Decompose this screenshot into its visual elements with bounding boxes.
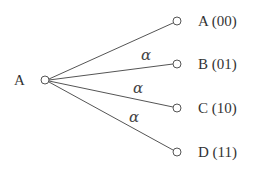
edge-a-d11 (49, 82, 173, 150)
edge-label-c10: α (133, 79, 143, 97)
tree-diagram: A A (00) B (01) C (10) D (11) α α α (0, 0, 254, 173)
leaf-node-b01 (173, 60, 181, 68)
root-node (41, 76, 49, 84)
root-label: A (14, 72, 25, 88)
leaf-label-c10: C (10) (198, 100, 237, 117)
edge-a-c10 (49, 81, 173, 107)
edge-label-b01: α (141, 46, 151, 64)
diagram-svg: A A (00) B (01) C (10) D (11) α α α (0, 0, 254, 173)
edge-a-a00 (49, 23, 173, 79)
edge-a-b01 (49, 64, 173, 80)
leaf-node-d11 (173, 148, 181, 156)
leaf-node-c10 (173, 104, 181, 112)
leaf-label-d11: D (11) (198, 144, 237, 161)
leaf-node-a00 (173, 17, 181, 25)
edge-label-d11: α (129, 108, 139, 126)
leaf-label-b01: B (01) (198, 56, 237, 73)
leaf-label-a00: A (00) (198, 13, 237, 30)
